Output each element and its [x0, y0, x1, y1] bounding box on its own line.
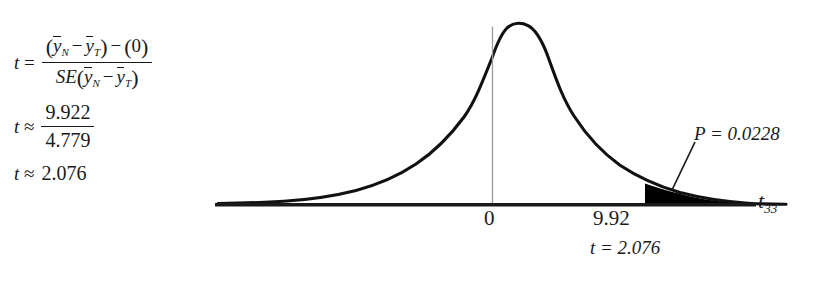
fraction-denominator: SE(yN−yT) [52, 65, 143, 91]
fraction-numerator: (yN−yT)−(0) [42, 34, 153, 60]
p-value-leader-line [672, 142, 695, 190]
numeric-numerator: 9.922 [41, 101, 94, 124]
axis-name-label: t33 [758, 190, 777, 215]
bell-curve-path [218, 23, 786, 204]
fraction-numeric: 9.922 4.779 [41, 101, 94, 153]
formula-block: t = (yN−yT)−(0) SE(yN−yT) t ≈ 9.922 4.77… [14, 34, 224, 191]
equation-lhs-t-result: t ≈ [14, 164, 41, 183]
fraction-bar-numeric [41, 126, 94, 128]
t-distribution-chart: 0 9.92 t = 2.076 P = 0.0228 t33 [200, 0, 831, 281]
equation-definition: t = (yN−yT)−(0) SE(yN−yT) [14, 34, 224, 91]
fraction-definition: (yN−yT)−(0) SE(yN−yT) [42, 34, 153, 91]
axis-tick-label-zero: 0 [484, 208, 495, 229]
equation-numeric-ratio: t ≈ 9.922 4.779 [14, 101, 224, 153]
equation-lhs-t: t = [14, 53, 42, 72]
axis-name-subscript: 33 [764, 201, 777, 216]
t-result-value: 2.076 [41, 162, 86, 185]
figure-container: t = (yN−yT)−(0) SE(yN−yT) t ≈ 9.922 4.77… [0, 0, 831, 281]
t-statistic-annotation: t = 2.076 [590, 238, 660, 257]
fraction-bar [42, 62, 153, 64]
equation-lhs-t-approx: t ≈ [14, 117, 41, 136]
numeric-denominator: 4.779 [41, 129, 94, 152]
equation-result: t ≈ 2.076 [14, 162, 224, 185]
p-value-annotation: P = 0.0228 [694, 124, 780, 143]
axis-tick-label-critical-value: 9.92 [593, 208, 630, 229]
